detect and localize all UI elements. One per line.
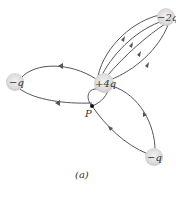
figure-caption: (a)	[75, 169, 89, 180]
field-lines-to-minus-2q	[98, 15, 168, 80]
arrow-icon	[137, 51, 141, 57]
field-lines-to-bottom-right-minus-q	[92, 86, 155, 154]
charge-label: −q	[9, 77, 24, 88]
charge-label: −2q	[157, 12, 176, 23]
arrow-icon	[145, 62, 149, 68]
charge-label: +4q	[95, 78, 116, 89]
field-lines-to-left-minus-q	[20, 63, 96, 106]
charge-minus-q-bottom-right: −q	[145, 148, 163, 166]
charge-minus-q-left: −q	[6, 73, 24, 91]
arrow-icon	[129, 42, 133, 48]
charge-plus-4q: +4q	[94, 73, 116, 93]
point-p-label: P	[84, 108, 92, 119]
charge-minus-2q: −2q	[157, 8, 176, 26]
charge-label: −q	[147, 152, 162, 163]
electric-field-diagram: P +4q −2q −q −q (a)	[0, 0, 176, 213]
arrow-icon	[58, 63, 63, 69]
